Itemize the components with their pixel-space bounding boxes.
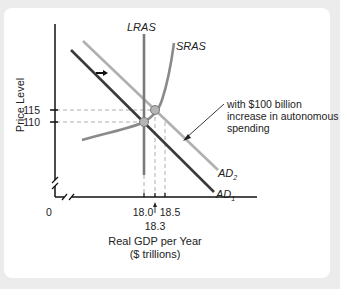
lras-label: LRAS bbox=[127, 21, 156, 33]
x-tick-18-5: 18.5 bbox=[160, 206, 181, 218]
annotation-arrow-icon bbox=[183, 104, 224, 141]
ad1-label: AD1 bbox=[215, 188, 235, 202]
ad2-curve bbox=[83, 41, 218, 170]
equilibrium-point-2 bbox=[151, 106, 160, 115]
marker-arrow-icon bbox=[153, 202, 157, 213]
annotation-line1: with $100 billion bbox=[226, 98, 302, 110]
y-ticks bbox=[50, 110, 58, 122]
origin-label: 0 bbox=[46, 206, 52, 218]
ad-as-diagram: LRAS SRAS AD2 AD1 115 110 Price Level 0 … bbox=[0, 0, 340, 289]
sras-curve bbox=[82, 43, 174, 140]
equilibrium-point-1 bbox=[140, 118, 149, 127]
x-axis-label-line2: ($ trillions) bbox=[130, 248, 181, 260]
x-tick-18-3: 18.3 bbox=[145, 220, 166, 232]
y-axis-label: Price Level bbox=[14, 78, 26, 132]
ad2-label: AD2 bbox=[217, 167, 237, 181]
sras-label: SRAS bbox=[176, 40, 207, 52]
x-axis-label-line1: Real GDP per Year bbox=[108, 235, 202, 247]
annotation-line2: increase in autonomous bbox=[227, 110, 339, 122]
x-tick-18-0: 18.0 bbox=[133, 206, 154, 218]
annotation-line3: spending bbox=[227, 122, 270, 134]
